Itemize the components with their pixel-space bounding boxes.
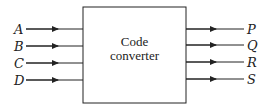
output-s: S [186,72,256,87]
output-label-r: R [246,55,257,70]
input-label-d: D [13,73,25,88]
block-title-line2: converter [110,48,160,63]
output-q: Q [186,38,258,53]
input-a: A [13,22,83,37]
input-d: D [13,73,83,88]
output-p: P [186,22,256,37]
output-label-s: S [247,72,256,87]
output-label-p: P [246,22,256,37]
input-label-b: B [13,39,24,54]
block-title-line1: Code [121,34,149,49]
input-c: C [14,56,83,71]
output-label-q: Q [247,38,258,53]
input-label-c: C [14,56,24,71]
input-label-a: A [13,22,23,37]
output-r: R [186,55,257,70]
code-converter-diagram: Code converter A B C D P Q R S [0,0,267,106]
input-b: B [13,39,83,54]
